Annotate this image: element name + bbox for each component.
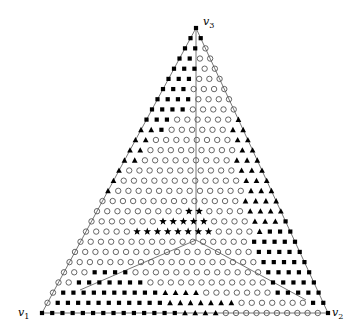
marker-circle	[219, 147, 224, 152]
marker-square	[82, 291, 86, 295]
marker-square	[292, 260, 296, 264]
marker-circle	[189, 280, 194, 285]
marker-square	[155, 97, 159, 101]
marker-circle	[226, 229, 231, 234]
marker-circle	[215, 270, 220, 275]
marker-triangle	[243, 198, 249, 203]
marker-circle	[222, 219, 227, 224]
marker-circle	[197, 56, 202, 61]
marker-triangle	[235, 137, 241, 142]
marker-circle	[119, 219, 124, 224]
marker-circle	[234, 290, 239, 295]
marker-circle	[156, 209, 161, 214]
marker-triangle	[244, 157, 250, 162]
marker-circle	[142, 158, 147, 163]
marker-circle	[202, 198, 207, 203]
marker-square	[102, 291, 106, 295]
marker-circle	[214, 290, 219, 295]
marker-circle	[207, 209, 212, 214]
marker-square	[296, 291, 300, 295]
marker-square	[288, 229, 292, 233]
marker-triangle	[252, 218, 258, 223]
marker-square	[71, 311, 75, 315]
marker-square	[60, 311, 64, 315]
marker-circle	[237, 229, 242, 234]
marker-square	[103, 270, 107, 274]
marker-circle	[241, 239, 246, 244]
marker-circle	[147, 168, 152, 173]
marker-triangle	[258, 188, 264, 193]
marker-square	[271, 280, 275, 284]
marker-square	[199, 36, 203, 40]
marker-triangle	[247, 208, 253, 213]
marker-star	[185, 207, 193, 214]
marker-square	[326, 311, 330, 315]
marker-circle	[226, 117, 231, 122]
marker-square	[86, 301, 90, 305]
marker-circle	[163, 137, 168, 142]
marker-circle	[204, 158, 209, 163]
marker-circle	[210, 259, 215, 264]
marker-circle	[199, 147, 204, 152]
marker-square	[76, 301, 80, 305]
marker-square	[267, 250, 271, 254]
marker-circle	[231, 239, 236, 244]
marker-square	[123, 270, 127, 274]
marker-circle	[113, 249, 118, 254]
marker-circle	[140, 219, 145, 224]
marker-square	[107, 280, 111, 284]
marker-circle	[136, 188, 141, 193]
marker-circle	[204, 137, 209, 142]
marker-square	[186, 97, 190, 101]
marker-star	[154, 228, 162, 235]
marker-triangle	[198, 300, 204, 305]
marker-circle	[163, 270, 168, 275]
marker-circle	[121, 178, 126, 183]
marker-circle	[178, 147, 183, 152]
marker-triangle	[137, 147, 143, 152]
marker-circle	[218, 188, 223, 193]
marker-circle	[214, 158, 219, 163]
marker-circle	[189, 127, 194, 132]
marker-square	[93, 270, 97, 274]
marker-square	[152, 311, 156, 315]
marker-circle	[217, 209, 222, 214]
marker-circle	[251, 259, 256, 264]
marker-square	[177, 77, 181, 81]
marker-circle	[118, 259, 123, 264]
marker-circle	[233, 178, 238, 183]
marker-circle	[108, 259, 113, 264]
marker-circle	[194, 137, 199, 142]
marker-square	[173, 311, 177, 315]
marker-circle	[141, 178, 146, 183]
marker-circle	[97, 259, 102, 264]
marker-square	[171, 87, 175, 91]
marker-circle	[228, 188, 233, 193]
marker-star	[200, 217, 208, 224]
marker-circle	[94, 229, 99, 234]
marker-circle	[196, 76, 201, 81]
marker-square	[172, 67, 176, 71]
marker-square	[252, 240, 256, 244]
marker-circle	[114, 229, 119, 234]
marker-triangle	[268, 208, 274, 213]
marker-circle	[166, 209, 171, 214]
marker-square	[122, 311, 126, 315]
marker-circle	[103, 249, 108, 254]
marker-circle	[188, 168, 193, 173]
marker-square	[50, 311, 54, 315]
marker-square	[112, 291, 116, 295]
marker-triangle	[229, 300, 235, 305]
marker-triangle	[248, 188, 254, 193]
marker-circle	[185, 117, 190, 122]
marker-circle	[218, 168, 223, 173]
marker-circle	[88, 239, 93, 244]
marker-square	[165, 118, 169, 122]
marker-square	[266, 270, 270, 274]
marker-circle	[150, 219, 155, 224]
marker-circle	[135, 209, 140, 214]
marker-square	[132, 311, 136, 315]
marker-circle	[174, 249, 179, 254]
marker-square	[166, 77, 170, 81]
marker-circle	[300, 300, 305, 305]
